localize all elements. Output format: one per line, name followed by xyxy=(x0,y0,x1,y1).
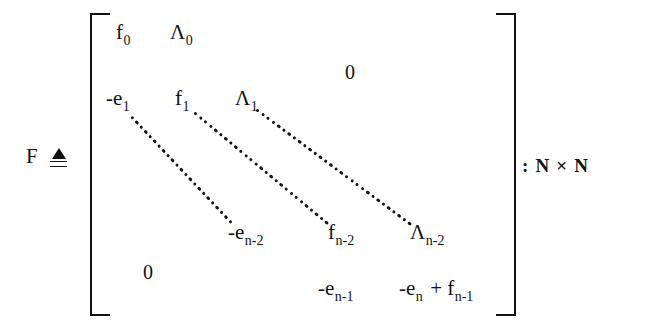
delta-equals-icon xyxy=(50,148,67,168)
matrix-entry-en2: -en-2 xyxy=(228,222,263,243)
equals-bars-glyph xyxy=(50,161,67,167)
triangle-glyph xyxy=(52,148,66,159)
matrix-entry-fn2: fn-2 xyxy=(328,222,354,243)
formula-canvas: F f0 Λ0 0 -e1 f1 Λ1 -en-2 fn-2 Λn-2 0 xyxy=(0,0,645,335)
matrix-entry-lambda1: Λ1 xyxy=(235,88,257,109)
matrix-variable-F: F xyxy=(26,144,38,169)
matrix-entry-en1: -en-1 xyxy=(318,278,353,299)
matrix-zero-lower-left: 0 xyxy=(143,262,153,282)
ellipsis-dots-superdiagonal xyxy=(255,108,409,224)
matrix-bracket-left xyxy=(90,13,110,316)
matrix-entry-en-plus-fn1: -en+fn-1 xyxy=(399,278,473,299)
matrix-entry-e1: -e1 xyxy=(106,88,129,109)
matrix-bracket-right xyxy=(496,13,516,316)
matrix-entry-lambdan2: Λn-2 xyxy=(410,222,444,243)
definition-label: F xyxy=(26,144,67,169)
matrix-entry-f1: f1 xyxy=(175,88,189,109)
matrix-entry-f0: f0 xyxy=(116,22,130,43)
dimension-annotation: : N × N xyxy=(522,155,589,177)
matrix-entry-lambda0: Λ0 xyxy=(170,22,192,43)
matrix-zero-upper-right: 0 xyxy=(345,62,355,82)
